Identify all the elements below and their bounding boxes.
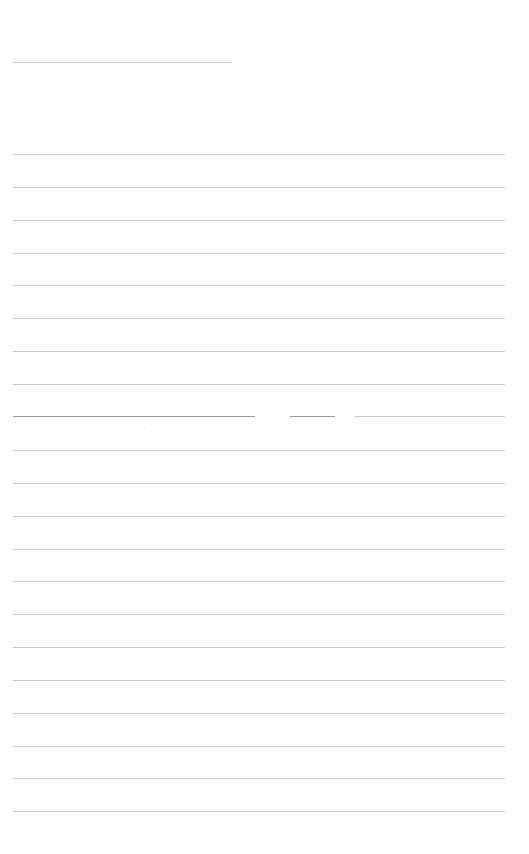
ruled-line — [13, 450, 505, 451]
ruled-line — [13, 647, 505, 648]
ruled-line-segment — [290, 416, 335, 417]
ruled-line — [13, 351, 505, 352]
ruled-line — [13, 549, 505, 550]
ruled-line — [13, 811, 505, 812]
ruled-line-segment — [13, 416, 255, 417]
ruled-line — [13, 614, 505, 615]
ruled-line — [13, 581, 505, 582]
ruled-line — [13, 187, 505, 188]
ruled-line — [13, 318, 505, 319]
ruled-line — [13, 680, 505, 681]
ruled-line — [13, 483, 505, 484]
ruled-line — [13, 746, 505, 747]
ruled-line-segment — [355, 416, 505, 417]
ruled-line — [13, 713, 505, 714]
ruled-line — [13, 285, 505, 286]
header-line — [13, 62, 232, 63]
ruled-line — [13, 154, 505, 155]
ruled-line — [13, 516, 505, 517]
speck — [145, 428, 146, 429]
ruled-line — [13, 220, 505, 221]
ruled-line — [13, 384, 505, 385]
ruled-line — [13, 253, 505, 254]
ruled-line — [13, 778, 505, 779]
